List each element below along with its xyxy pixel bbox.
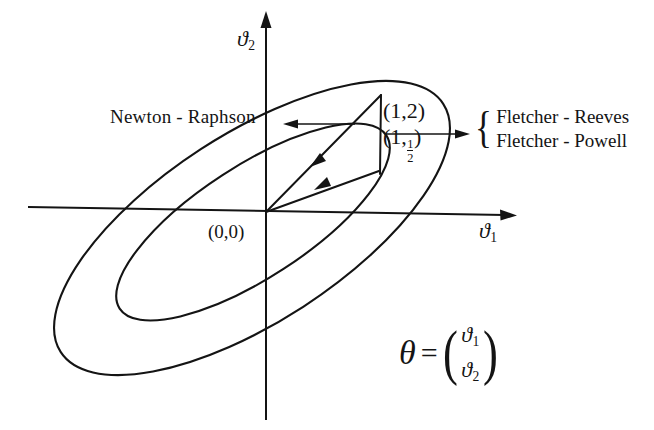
- y-axis-label-symbol: ϑ: [237, 26, 248, 51]
- theta-vector-equation: θ = ( ϑ1 ϑ2 ): [399, 318, 501, 387]
- left-curly-brace-icon: {: [475, 109, 492, 147]
- contour-diagram-svg: [0, 0, 654, 430]
- origin-label: (0,0): [208, 222, 244, 241]
- fletcher-callout-arrowhead: [455, 130, 470, 139]
- point-label-lower: (1,12): [381, 124, 423, 165]
- fletcher-reeves-label: Fletcher - Reeves: [496, 105, 629, 129]
- newton-raphson-vector: [266, 95, 381, 212]
- fletcher-methods-group: { Fletcher - Reeves Fletcher - Powell: [473, 105, 629, 154]
- theta-symbol: θ: [399, 336, 421, 370]
- newton-raphson-label: Newton - Raphson: [110, 107, 256, 126]
- theta-component-1: ϑ1: [461, 318, 479, 353]
- fletcher-vector-arrowhead: [314, 177, 331, 190]
- x-axis-label-subscript: 1: [490, 230, 497, 245]
- theta-components: ϑ1 ϑ2: [460, 318, 480, 387]
- theta-component-2-symbol: ϑ: [461, 357, 472, 382]
- inner-contour-curve: [89, 88, 417, 355]
- theta-component-1-subscript: 1: [472, 334, 479, 349]
- y-axis-label-subscript: 2: [248, 38, 255, 53]
- fletcher-vector: [266, 171, 379, 212]
- newton-raphson-callout-arrowhead: [283, 120, 298, 129]
- theta-component-2: ϑ2: [461, 353, 479, 388]
- y-axis: [261, 11, 272, 420]
- right-parenthesis: ): [483, 328, 498, 376]
- point-coordinates-stack: (1,2) (1,12): [381, 98, 427, 164]
- y-axis-label: ϑ2: [237, 28, 255, 53]
- point-label-lower-suffix: ): [414, 124, 421, 149]
- point-label-lower-prefix: (1,: [383, 124, 407, 149]
- x-axis-arrowhead: [500, 210, 517, 221]
- one-half-fraction: 12: [407, 138, 414, 165]
- left-parenthesis: (: [443, 328, 458, 376]
- newton-raphson-vector-arrowhead: [310, 153, 326, 167]
- equals-sign: =: [421, 338, 440, 368]
- theta-component-2-subscript: 2: [472, 369, 479, 384]
- fletcher-powell-label: Fletcher - Powell: [496, 129, 629, 153]
- newton-raphson-callout-arrow: [283, 120, 355, 129]
- fraction-denominator: 2: [407, 150, 413, 164]
- fraction-numerator: 1: [407, 138, 413, 151]
- y-axis-arrowhead: [261, 11, 272, 28]
- point-label-upper: (1,2): [381, 98, 427, 124]
- x-axis-label-symbol: ϑ: [479, 218, 490, 243]
- figure-canvas: Newton - Raphson (0,0) ϑ2 ϑ1 (1,2) (1,12…: [0, 0, 654, 430]
- theta-component-1-symbol: ϑ: [461, 322, 472, 347]
- x-axis-label: ϑ1: [479, 220, 497, 245]
- fletcher-methods-lines: Fletcher - Reeves Fletcher - Powell: [496, 105, 629, 154]
